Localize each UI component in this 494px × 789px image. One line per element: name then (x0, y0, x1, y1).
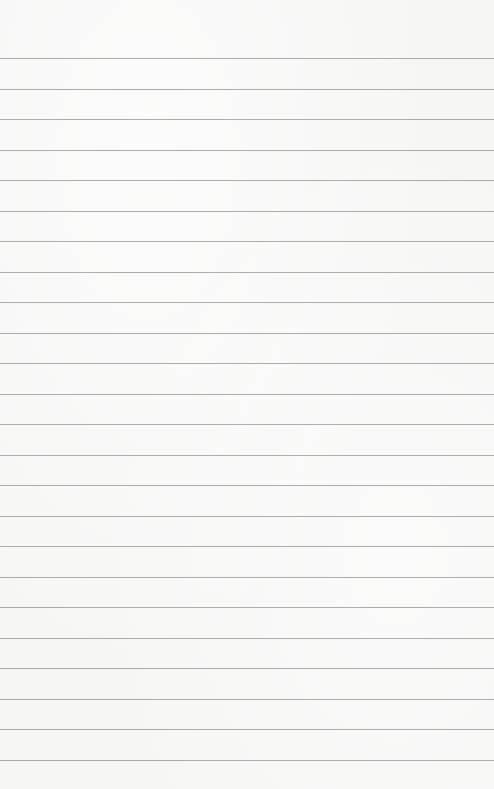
ruled-line (0, 516, 494, 517)
ruled-line (0, 394, 494, 395)
ruled-line (0, 119, 494, 120)
ruled-line (0, 638, 494, 639)
ruled-line (0, 729, 494, 730)
ruled-line (0, 333, 494, 334)
ruled-line (0, 150, 494, 151)
ruled-line (0, 272, 494, 273)
ruled-line (0, 58, 494, 59)
ruled-line (0, 424, 494, 425)
ruled-line (0, 668, 494, 669)
ruled-line (0, 607, 494, 608)
ruled-line (0, 241, 494, 242)
ruled-line (0, 180, 494, 181)
ruled-line (0, 546, 494, 547)
ruled-line (0, 760, 494, 761)
ruled-line (0, 89, 494, 90)
lined-paper-sheet (0, 0, 494, 789)
ruled-line (0, 363, 494, 364)
ruled-line (0, 699, 494, 700)
ruled-line (0, 577, 494, 578)
ruled-line (0, 302, 494, 303)
ruled-line (0, 455, 494, 456)
ruled-line (0, 211, 494, 212)
ruled-line (0, 485, 494, 486)
